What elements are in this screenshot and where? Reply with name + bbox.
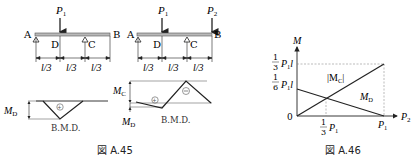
line-mc: [297, 64, 384, 116]
y-tick-mid: 1 6 P1l: [272, 73, 293, 92]
label-a: A: [126, 29, 135, 40]
caption-a46: 図 A.46: [325, 145, 361, 156]
label-d: D: [153, 39, 161, 50]
chart-a46: M P2 0 1 3 P1l 1 6 P1l 1 3 P1 P1 |MC| MD: [272, 35, 411, 137]
svg-text:P1: P1: [328, 122, 338, 134]
bmd-label: B.M.D.: [51, 123, 81, 133]
span-label-2: l/3: [168, 62, 179, 73]
bmd-diagram-1: MD + B.M.D.: [3, 101, 108, 133]
bmd-diagram-2: MC MD + B.M.D.: [112, 81, 212, 129]
x-tick-p1: P1: [377, 119, 387, 131]
label-a: A: [23, 29, 32, 40]
series-label-md: MD: [359, 91, 373, 103]
md-label: MD: [3, 105, 17, 118]
label-b: B: [214, 29, 221, 40]
span-label-3: l/3: [193, 62, 204, 73]
beam-diagram-2: P1 P2 A B D C l/3 l/3 l/3: [126, 4, 221, 73]
svg-text:P1l: P1l: [280, 58, 293, 70]
beam-bar: [35, 33, 110, 36]
svg-text:P1l: P1l: [280, 79, 293, 91]
label-b: B: [113, 29, 120, 40]
svg-text:3: 3: [273, 63, 278, 72]
mc-label: MC: [112, 85, 126, 98]
svg-text:+: +: [58, 104, 62, 111]
bmd-curve: [136, 81, 211, 108]
x-tick-third: 1 3 P1: [320, 118, 338, 137]
md-label: MD: [121, 116, 135, 129]
label-d: D: [51, 39, 59, 50]
svg-text:+: +: [153, 97, 157, 104]
svg-text:6: 6: [273, 83, 278, 92]
dimension-lines: [36, 36, 110, 62]
label-c: C: [88, 39, 96, 50]
load-label-p1: P1: [55, 4, 67, 18]
series-label-mc: |MC|: [327, 72, 344, 84]
origin-label: 0: [287, 112, 293, 122]
svg-text:1: 1: [321, 118, 326, 127]
beam-bar: [137, 33, 212, 36]
x-axis-label: P2: [400, 111, 411, 124]
svg-text:1: 1: [273, 53, 278, 62]
dimension-lines: [138, 36, 212, 62]
svg-text:3: 3: [321, 128, 326, 137]
beam-diagram-1: P1 A B D C l/3 l/3 l/3: [23, 4, 120, 73]
span-label-3: l/3: [91, 62, 102, 73]
y-axis-label: M: [292, 35, 302, 46]
span-label-1: l/3: [41, 62, 52, 73]
figure-canvas: P1 A B D C l/3 l/3 l/3 P1 P2 A: [0, 0, 420, 163]
load-label-p1: P1: [157, 4, 169, 18]
load-label-p2: P2: [206, 4, 218, 18]
svg-text:1: 1: [273, 73, 278, 82]
bmd-curve: [43, 101, 83, 119]
bmd-label: B.M.D.: [161, 115, 191, 125]
span-label-2: l/3: [66, 62, 77, 73]
label-c: C: [190, 39, 198, 50]
span-label-1: l/3: [143, 62, 154, 73]
y-tick-top: 1 3 P1l: [272, 53, 293, 72]
caption-a45: 図 A.45: [97, 145, 133, 156]
